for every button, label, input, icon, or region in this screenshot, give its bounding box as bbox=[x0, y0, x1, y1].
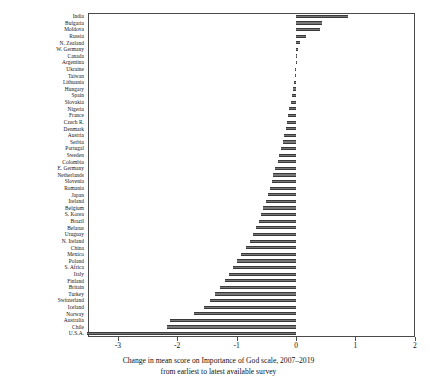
axis-tick-label: 2 bbox=[400, 341, 430, 351]
bar bbox=[261, 213, 296, 216]
bar bbox=[296, 15, 348, 18]
bar bbox=[215, 292, 296, 295]
chart-container: IndiaBulgariaMoldovaRussiaN. ZealandW. G… bbox=[0, 0, 437, 388]
caption-line-1: Change in mean score on Importance of Go… bbox=[0, 356, 437, 367]
bar bbox=[225, 279, 296, 282]
bar bbox=[241, 253, 296, 256]
bar bbox=[253, 233, 296, 236]
bar bbox=[296, 48, 298, 51]
caption-line-2: from earliest to latest available survey bbox=[0, 367, 437, 378]
bar bbox=[296, 54, 297, 57]
axis-tick-label: -1 bbox=[222, 341, 252, 351]
bar bbox=[246, 246, 296, 249]
bar bbox=[296, 61, 297, 64]
axis-tick-mark bbox=[118, 337, 119, 341]
bar bbox=[296, 41, 300, 44]
bar bbox=[263, 206, 296, 209]
bar bbox=[268, 193, 296, 196]
axis-tick-label: 1 bbox=[340, 341, 370, 351]
bar bbox=[294, 81, 296, 84]
bar bbox=[286, 127, 296, 130]
bar bbox=[229, 273, 296, 276]
bar bbox=[170, 319, 296, 322]
bar bbox=[272, 180, 296, 183]
bar bbox=[284, 134, 296, 137]
bar bbox=[291, 101, 296, 104]
bar bbox=[273, 173, 296, 176]
bar bbox=[278, 160, 296, 163]
axis-tick-mark bbox=[177, 337, 178, 341]
bar bbox=[266, 200, 296, 203]
bar bbox=[279, 154, 296, 157]
axis-tick-mark bbox=[415, 337, 416, 341]
axis-tick-mark bbox=[296, 337, 297, 341]
bar bbox=[210, 299, 296, 302]
bar bbox=[237, 259, 296, 262]
bar bbox=[295, 74, 296, 77]
bar bbox=[292, 94, 296, 97]
axis-tick-label: -2 bbox=[162, 341, 192, 351]
bar bbox=[295, 68, 296, 71]
bar bbox=[283, 140, 296, 143]
bar bbox=[293, 87, 296, 90]
axis-tick-label: -3 bbox=[103, 341, 133, 351]
axis-tick-label: 0 bbox=[281, 341, 311, 351]
bar bbox=[250, 240, 296, 243]
bar bbox=[87, 332, 296, 335]
chart-caption: Change in mean score on Importance of Go… bbox=[0, 356, 437, 377]
bar bbox=[296, 21, 322, 24]
axis-tick-mark bbox=[237, 337, 238, 341]
axis-tick-mark bbox=[355, 337, 356, 341]
bar bbox=[270, 187, 296, 190]
bar bbox=[275, 167, 296, 170]
bar bbox=[281, 147, 296, 150]
bar bbox=[204, 306, 296, 309]
bar bbox=[296, 35, 306, 38]
bar bbox=[289, 107, 296, 110]
bar bbox=[287, 121, 296, 124]
bar bbox=[288, 114, 296, 117]
bar bbox=[194, 312, 296, 315]
bar bbox=[233, 266, 296, 269]
bar bbox=[256, 226, 296, 229]
bars-layer bbox=[0, 13, 437, 337]
bar bbox=[296, 28, 320, 31]
bar bbox=[220, 286, 296, 289]
bar bbox=[167, 325, 296, 328]
bar bbox=[259, 220, 296, 223]
